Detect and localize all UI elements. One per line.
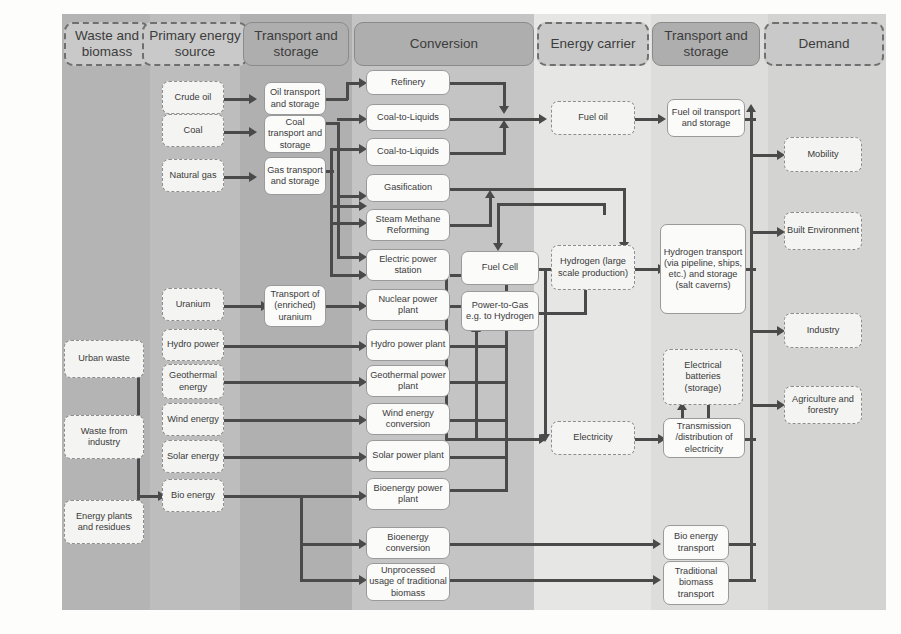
link-bioconv-transport — [450, 543, 656, 546]
node-urban-waste[interactable]: Urban waste — [64, 340, 144, 378]
node-fuel-cell[interactable]: Fuel Cell — [461, 251, 539, 285]
link-bio-bioconv — [300, 543, 362, 546]
energy-flow-diagram: Waste and biomass Primary energy source … — [0, 0, 901, 634]
arrow-bioenergytransport-in — [653, 539, 661, 549]
header-carrier: Energy carrier — [537, 22, 649, 66]
arrow-crudeoil-oiltransport — [249, 94, 257, 104]
link-elec-to-ptg — [475, 330, 478, 440]
header-transport2: Transport and storage — [652, 22, 760, 66]
link-biopowerplant-out — [450, 489, 508, 492]
link-ctl2-up — [503, 126, 506, 154]
node-fuel-oil-transport-and-storage[interactable]: Fuel oil transport and storage — [667, 99, 745, 137]
node-hydrogen-large-scale-production[interactable]: Hydrogen (large scale production) — [551, 245, 635, 290]
link-hydroplant-out — [450, 345, 508, 348]
node-bioenergy-conversion[interactable]: Bioenergy conversion — [366, 527, 450, 559]
arrow-ctl2-up — [499, 120, 509, 128]
node-agriculture-and-forestry[interactable]: Agriculture and forestry — [784, 386, 862, 424]
node-steam-methane-reforming[interactable]: Steam Methane Reforming — [366, 209, 450, 241]
arrow-fuelcell-in — [493, 243, 503, 251]
node-transmission-distribution-of-electricity[interactable]: Transmission /distribution of electricit… — [663, 418, 745, 458]
node-crude-oil[interactable]: Crude oil — [162, 81, 224, 114]
node-hydro-power-plant[interactable]: Hydro power plant — [366, 329, 450, 361]
link-unprocessed-transport — [450, 579, 656, 582]
node-electrical-batteries-storage[interactable]: Electrical batteries (storage) — [663, 349, 743, 405]
link-gas-gasification2 — [330, 205, 362, 208]
link-trunk-agriculture — [750, 404, 780, 407]
node-power-to-gas[interactable]: Power-to-Gas e.g. to Hydrogen — [461, 291, 539, 331]
node-electric-power-station[interactable]: Electric power station — [366, 249, 450, 281]
header-transport1: Transport and storage — [243, 22, 349, 66]
link-oiltransport-vert — [346, 82, 349, 100]
arrow-fueloiltransport-in — [658, 114, 666, 124]
node-coal[interactable]: Coal — [162, 114, 224, 147]
node-fuel-oil[interactable]: Fuel oil — [551, 101, 635, 135]
link-uraniumtransport-nuclear — [326, 305, 362, 308]
link-gas-ctl2 — [330, 148, 362, 151]
arrow-refinery-down — [499, 106, 509, 114]
node-hydrogen-transport-and-storage[interactable]: Hydrogen transport (via pipeline, ships,… — [660, 224, 746, 314]
arrow-smr-up — [485, 190, 495, 198]
arrow-traditionaltransport-in — [653, 575, 661, 585]
node-gas-transport-and-storage[interactable]: Gas transport and storage — [264, 157, 326, 195]
node-bioenergy-power-plant[interactable]: Bioenergy power plant — [366, 478, 450, 510]
node-mobility[interactable]: Mobility — [784, 137, 862, 172]
link-h2bus-right-v — [603, 203, 606, 215]
node-solar-energy[interactable]: Solar energy — [162, 440, 224, 473]
arrow-trunk-top — [746, 104, 756, 112]
demand-distribution-trunk — [750, 110, 753, 582]
header-conversion: Conversion — [354, 22, 534, 66]
node-uranium[interactable]: Uranium — [162, 288, 224, 321]
link-uranium-uraniumtransport — [222, 305, 264, 308]
node-coal-transport-and-storage[interactable]: Coal transport and storage — [264, 115, 326, 153]
node-hydro-power[interactable]: Hydro power — [162, 329, 224, 361]
node-coal-to-liquids-2[interactable]: Coal-to-Liquids — [366, 138, 450, 166]
node-bio-energy[interactable]: Bio energy — [162, 479, 224, 512]
node-waste-from-industry[interactable]: Waste from industry — [64, 415, 144, 459]
link-solar-solarplant — [222, 456, 362, 459]
node-geothermal-energy[interactable]: Geothermal energy — [162, 364, 224, 399]
node-industry[interactable]: Industry — [784, 313, 862, 348]
link-bio-unprocessed — [300, 579, 362, 582]
node-wind-energy[interactable]: Wind energy — [162, 403, 224, 436]
arrow-coal-coaltransport — [249, 127, 257, 137]
link-fuelcell-down — [544, 268, 547, 438]
arrow-fueloil-in — [539, 114, 547, 124]
node-traditional-biomass-transport[interactable]: Traditional biomass transport — [663, 561, 729, 605]
link-crudeoil-oiltransport — [222, 98, 252, 101]
link-ctl2-out — [450, 152, 506, 155]
link-geothermal-geoplant — [222, 381, 362, 384]
node-wind-energy-conversion[interactable]: Wind energy conversion — [366, 403, 450, 435]
link-ctl1-fueloil — [450, 118, 542, 121]
header-waste: Waste and biomass — [64, 22, 150, 66]
node-refinery[interactable]: Refinery — [366, 70, 450, 95]
header-primary: Primary energy source — [142, 22, 248, 66]
link-smr-out — [450, 224, 492, 227]
node-electricity[interactable]: Electricity — [551, 421, 635, 455]
link-windconv-out — [450, 419, 508, 422]
link-gas-electric2 — [330, 274, 362, 277]
trunk-bio-down — [300, 495, 303, 579]
node-nuclear-power-plant[interactable]: Nuclear power plant — [366, 289, 450, 321]
node-coal-to-liquids-1[interactable]: Coal-to-Liquids — [366, 104, 450, 131]
link-trunk-mobility — [750, 154, 780, 157]
link-smr-up — [489, 196, 492, 226]
node-bio-energy-transport[interactable]: Bio energy transport — [663, 525, 729, 560]
link-gas-smr — [330, 222, 362, 225]
node-geothermal-power-plant[interactable]: Geothermal power plant — [366, 365, 450, 397]
node-energy-plants-and-residues[interactable]: Energy plants and residues — [64, 500, 144, 544]
node-transport-of-enriched-uranium[interactable]: Transport of (enriched) uranium — [264, 285, 326, 327]
link-oiltransport-out — [326, 98, 348, 101]
link-geoplant-out — [450, 381, 508, 384]
link-ptg-out — [539, 312, 587, 315]
link-gasification-out — [450, 188, 626, 191]
node-solar-power-plant[interactable]: Solar power plant — [366, 440, 450, 472]
trunk-coal — [337, 122, 340, 256]
node-natural-gas[interactable]: Natural gas — [162, 159, 224, 192]
node-unprocessed-usage-of-traditional-biomass[interactable]: Unprocessed usage of traditional biomass — [366, 563, 450, 601]
node-built-environment[interactable]: Built Environment — [784, 212, 862, 250]
link-gasification-down — [623, 188, 626, 246]
link-refinery-out — [450, 82, 506, 85]
link-elecbus-to-electricity — [445, 438, 542, 441]
node-gasification[interactable]: Gasification — [366, 174, 450, 202]
node-oil-transport-and-storage[interactable]: Oil transport and storage — [264, 82, 326, 115]
